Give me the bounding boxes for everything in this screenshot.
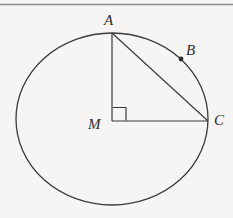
vertex-label-c: C xyxy=(214,113,224,128)
figure-canvas xyxy=(0,0,233,218)
vertex-label-a: A xyxy=(104,13,113,28)
vertex-label-m: M xyxy=(88,117,101,132)
geometry-figure: A B C M xyxy=(0,0,233,218)
right-angle-marker xyxy=(113,108,126,121)
vertex-label-b: B xyxy=(186,43,195,58)
point-marker-b xyxy=(179,57,184,62)
